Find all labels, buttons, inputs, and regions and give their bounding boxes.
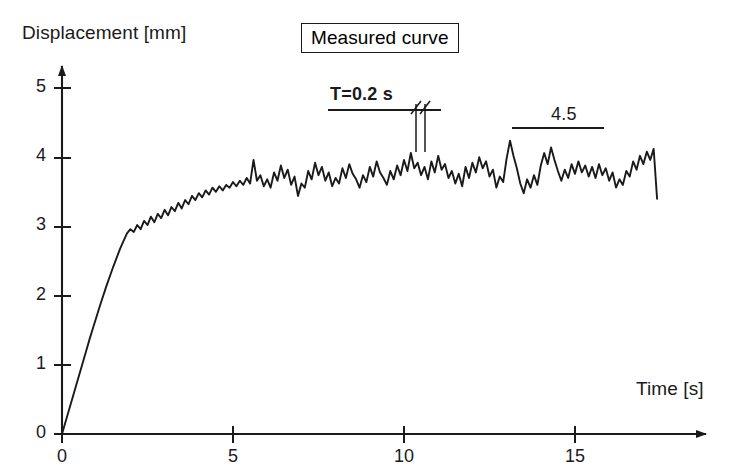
chart-figure: Displacement [mm] Time [s] Measured curv… (0, 0, 748, 469)
y-tick-label: 2 (24, 284, 46, 305)
x-tick-label: 0 (42, 446, 82, 467)
x-tick-label: 15 (555, 446, 595, 467)
y-tick-label: 4 (24, 145, 46, 166)
measured-curve-path (62, 141, 657, 434)
y-axis-label: Displacement [mm] (22, 22, 186, 44)
legend-measured-curve: Measured curve (301, 23, 459, 53)
x-tick-label: 5 (213, 446, 253, 467)
x-axis-label: Time [s] (636, 378, 704, 400)
period-annotation-marks (328, 101, 441, 152)
y-tick-label: 5 (24, 76, 46, 97)
x-tick-label: 10 (384, 446, 424, 467)
y-tick-label: 3 (24, 214, 46, 235)
period-annotation-label: T=0.2 s (330, 84, 393, 105)
y-tick-label: 1 (24, 353, 46, 374)
amplitude-annotation-label: 4.5 (551, 104, 577, 125)
y-tick-label: 0 (24, 422, 46, 443)
